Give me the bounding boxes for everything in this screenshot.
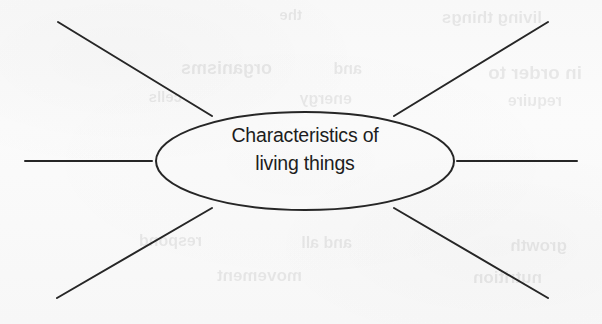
diagram-canvas: living thingsthein order toandorganismsr… [0, 0, 602, 324]
central-topic-label: Characteristics of living things [155, 122, 455, 177]
central-label-line-2: living things [155, 150, 455, 178]
branch-bottom-left[interactable] [57, 208, 212, 298]
branch-bottom-right[interactable] [394, 208, 548, 298]
branch-top-right[interactable] [394, 22, 548, 116]
branch-top-left[interactable] [58, 22, 212, 116]
central-label-line-1: Characteristics of [155, 122, 455, 150]
